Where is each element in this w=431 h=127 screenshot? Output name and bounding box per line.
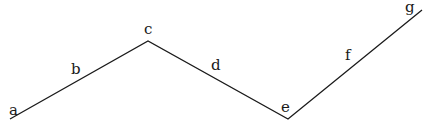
label-e: e [281, 100, 290, 115]
zigzag-diagram: a b c d e f g [0, 0, 431, 127]
label-f: f [345, 48, 351, 63]
label-b: b [71, 62, 81, 77]
label-c: c [144, 22, 152, 37]
label-d: d [211, 58, 221, 73]
label-g: g [405, 0, 415, 15]
label-a: a [9, 103, 18, 118]
